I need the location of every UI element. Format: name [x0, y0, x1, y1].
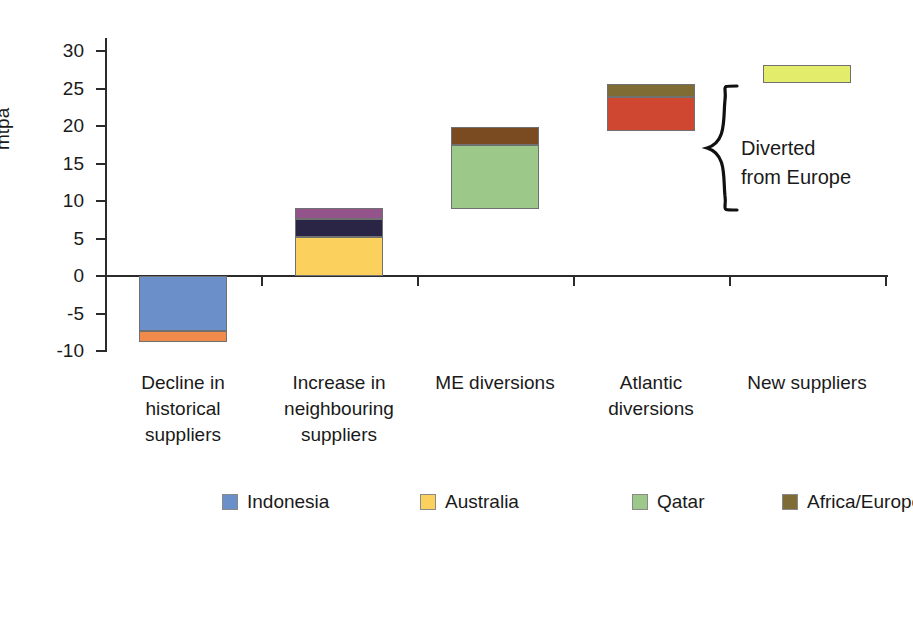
bar-stack[interactable] — [763, 65, 851, 83]
y-tick — [96, 238, 105, 240]
brace-annotation-label: Diverted from Europe — [741, 134, 851, 192]
bar-segment[interactable] — [139, 331, 227, 342]
x-axis-category-label-line: suppliers — [261, 422, 417, 448]
y-tick-label: 5 — [34, 229, 84, 248]
brace-icon — [697, 84, 743, 216]
legend-item[interactable]: Africa/Europe — [782, 491, 913, 513]
x-tick — [261, 277, 263, 286]
y-axis-line — [105, 38, 107, 352]
legend-swatch-icon — [632, 494, 648, 510]
bar-stack[interactable] — [451, 127, 539, 210]
x-tick — [573, 277, 575, 286]
legend: IndonesiaAustraliaQatarAfrica/EuropeBrun… — [222, 487, 782, 517]
bar-segment[interactable] — [295, 208, 383, 219]
brace-annotation-line-1: Diverted — [741, 134, 851, 163]
y-axis-title: mtpa — [0, 108, 14, 150]
y-tick-label: 25 — [34, 79, 84, 98]
bar-stack[interactable] — [295, 208, 383, 276]
y-tick-label: 15 — [34, 154, 84, 173]
y-tick — [96, 88, 105, 90]
y-tick-label: -10 — [34, 341, 84, 360]
bar-stack[interactable] — [607, 84, 695, 131]
bar-segment[interactable] — [763, 65, 851, 83]
x-tick — [729, 277, 731, 286]
x-axis-category-label: Increase inneighbouringsuppliers — [261, 370, 417, 448]
bar-segment[interactable] — [607, 97, 695, 132]
x-axis-category-label-line: neighbouring — [261, 396, 417, 422]
legend-item[interactable]: Australia — [420, 491, 632, 513]
y-tick — [96, 313, 105, 315]
bar-segment[interactable] — [139, 276, 227, 331]
x-tick — [105, 277, 107, 286]
x-axis-category-label-line: suppliers — [105, 422, 261, 448]
x-axis-category-label-line: ME diversions — [417, 370, 573, 396]
x-tick — [417, 277, 419, 286]
y-tick-label: -5 — [34, 304, 84, 323]
x-axis-category-label: Atlanticdiversions — [573, 370, 729, 422]
bar-stack[interactable] — [139, 276, 227, 342]
x-axis-category-label-line: diversions — [573, 396, 729, 422]
legend-item[interactable]: Qatar — [632, 491, 782, 513]
y-tick — [96, 163, 105, 165]
legend-swatch-icon — [782, 494, 798, 510]
legend-label: Australia — [445, 491, 519, 513]
x-axis-category-label-line: Atlantic — [573, 370, 729, 396]
legend-swatch-icon — [420, 494, 436, 510]
y-tick — [96, 50, 105, 52]
bar-segment[interactable] — [451, 127, 539, 145]
brace-annotation-line-2: from Europe — [741, 163, 851, 192]
x-axis-category-label-line: New suppliers — [729, 370, 885, 396]
legend-label: Africa/Europe — [807, 491, 913, 513]
legend-item[interactable]: Indonesia — [222, 491, 420, 513]
x-axis-category-label-line: historical — [105, 396, 261, 422]
x-axis-category-label: Decline inhistoricalsuppliers — [105, 370, 261, 448]
y-tick-label: 30 — [34, 41, 84, 60]
y-tick — [96, 200, 105, 202]
legend-swatch-icon — [222, 494, 238, 510]
waterfall-chart: mtpa 302520151050-5-10 Decline inhistori… — [0, 0, 913, 628]
bar-segment[interactable] — [451, 145, 539, 210]
legend-label: Indonesia — [247, 491, 329, 513]
legend-label: Qatar — [657, 491, 705, 513]
x-axis-category-label-line: Decline in — [105, 370, 261, 396]
bar-segment[interactable] — [607, 84, 695, 97]
y-tick-label: 10 — [34, 191, 84, 210]
y-tick — [96, 125, 105, 127]
bar-segment[interactable] — [295, 219, 383, 237]
x-axis-category-label: ME diversions — [417, 370, 573, 396]
y-tick — [96, 275, 105, 277]
y-tick — [96, 350, 105, 352]
x-axis-category-label: New suppliers — [729, 370, 885, 396]
y-tick-label: 20 — [34, 116, 84, 135]
bar-segment[interactable] — [295, 237, 383, 276]
y-tick-label: 0 — [34, 266, 84, 285]
x-tick — [885, 277, 887, 286]
x-axis-category-label-line: Increase in — [261, 370, 417, 396]
